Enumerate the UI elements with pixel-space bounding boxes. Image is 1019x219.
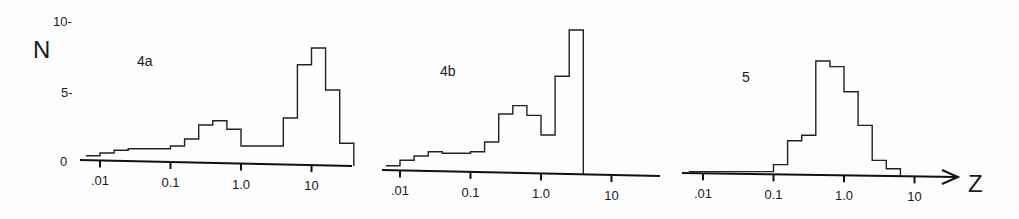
x-tick-label: 1.0 [532,186,550,201]
x-tick-label: 10 [304,178,318,193]
figure: N 10- 5- 0 4a 4b 5 Z .010.11.010.010.11.… [0,0,1019,219]
x-tick-label: 0.1 [161,175,179,190]
x-tick-label: .01 [391,183,409,198]
panels-group: .010.11.010.010.11.010.010.11.010 [80,30,958,204]
x-tick-label: 10 [604,188,618,203]
x-tick-label: .01 [91,173,109,188]
x-axis-line [80,160,352,166]
panel-label-5: 5 [742,69,750,85]
histogram-figure: N 10- 5- 0 4a 4b 5 Z .010.11.010.010.11.… [0,0,1019,219]
x-axis-line [682,173,958,177]
y-tick-5: 5- [61,85,73,100]
panel-label-4a: 4a [137,53,153,69]
y-tick-0: 0 [60,154,67,169]
x-tick-label: .01 [694,186,712,201]
histogram-steps [86,48,354,166]
y-axis-label: N [33,36,50,63]
y-tick-10: 10- [53,14,72,29]
x-tick-label: 1.0 [835,188,853,203]
histogram-panel-4a: .010.11.010 [80,48,354,193]
panel-label-4b: 4b [440,63,456,79]
histogram-panel-4b: .010.11.010 [382,30,660,203]
x-axis-line [382,170,660,176]
x-tick-label: 0.1 [461,185,479,200]
x-tick-label: 0.1 [764,187,782,202]
x-tick-label: 10 [907,189,921,204]
histogram-panel-5: .010.11.010 [682,61,958,204]
x-axis-label: Z [968,170,983,197]
histogram-steps [386,30,583,174]
histogram-steps [689,61,901,176]
x-tick-label: 1.0 [232,177,250,192]
